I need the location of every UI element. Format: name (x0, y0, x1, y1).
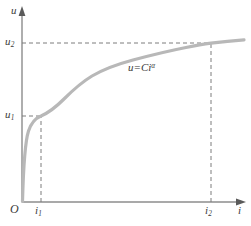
i-axis-label: i (238, 205, 241, 216)
x-tick-label-i1: i1 (35, 205, 42, 218)
curve-equation-annotation: u=Ciα (128, 62, 155, 73)
plot-background (0, 0, 251, 226)
figure-canvas (0, 0, 251, 226)
curve-equation-exponent: α (151, 62, 155, 70)
y-tick-label-u2: u2 (5, 36, 14, 49)
origin-label: O (10, 203, 19, 215)
power-law-curve-figure: u i O u1 u2 i1 i2 u=Ciα (0, 0, 251, 226)
y-tick-label-u1: u1 (5, 109, 14, 122)
y-tick-u2-subscript: 2 (11, 41, 15, 49)
y-tick-u1-subscript: 1 (11, 114, 15, 122)
x-tick-i2-subscript: 2 (208, 210, 212, 218)
curve-equation-base: u=Ci (128, 61, 151, 73)
y-tick-u2-base: u (5, 35, 11, 47)
x-tick-i1-subscript: 1 (38, 210, 42, 218)
y-tick-u1-base: u (5, 108, 11, 120)
x-tick-label-i2: i2 (205, 205, 212, 218)
u-axis-label: u (11, 5, 17, 16)
